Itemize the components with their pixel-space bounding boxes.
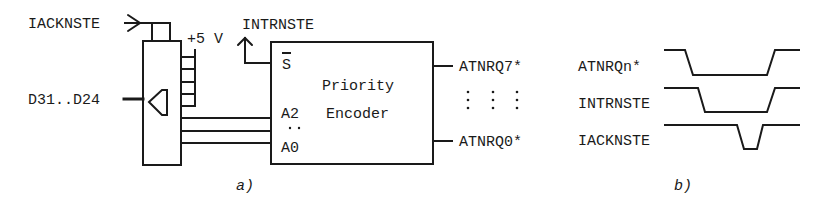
iacknste-label: IACKNSTE	[28, 16, 100, 33]
output-atnrq7-label: ATNRQ7*	[459, 59, 522, 76]
pullup-ladder	[181, 50, 195, 106]
timing-label-atnrqn: ATNRQn*	[578, 59, 641, 76]
encoder-title-line1: Priority	[322, 78, 394, 95]
waveform-iacknste	[664, 125, 800, 149]
timing-label-iacknste: IACKNSTE	[578, 133, 650, 150]
intrnste-label: INTRNSTE	[242, 17, 314, 34]
intrnste-arrow-icon	[238, 38, 271, 63]
pin-dot	[298, 127, 300, 129]
output-ellipsis	[467, 91, 519, 110]
buffer-enable-connector	[152, 23, 170, 41]
pin-a0-label: A0	[281, 140, 299, 157]
pin-dot	[289, 127, 291, 129]
iacknste-arrow-icon	[125, 15, 152, 31]
timing-label-intrnste: INTRNSTE	[578, 96, 650, 113]
caption-a: a)	[236, 178, 254, 195]
supply-label: +5 V	[187, 31, 223, 48]
data-bus-label: D31..D24	[28, 92, 100, 109]
waveform-atnrqn	[664, 50, 800, 75]
interrupt-circuit-figure: IACKNSTE D31..D24 +5 V	[0, 0, 826, 206]
waveform-intrnste	[664, 88, 800, 112]
caption-b: b)	[674, 178, 692, 195]
pin-s-label: S	[282, 57, 291, 74]
figure-a: IACKNSTE D31..D24 +5 V	[28, 15, 522, 195]
output-atnrq0-label: ATNRQ0*	[459, 134, 522, 151]
figure-b: ATNRQn* INTRNSTE IACKNSTE b)	[578, 50, 800, 195]
encoder-title-line2: Encoder	[326, 106, 389, 123]
address-lines	[181, 118, 271, 143]
buffer-triangle-icon	[149, 90, 167, 115]
pin-a2-label: A2	[281, 106, 299, 123]
